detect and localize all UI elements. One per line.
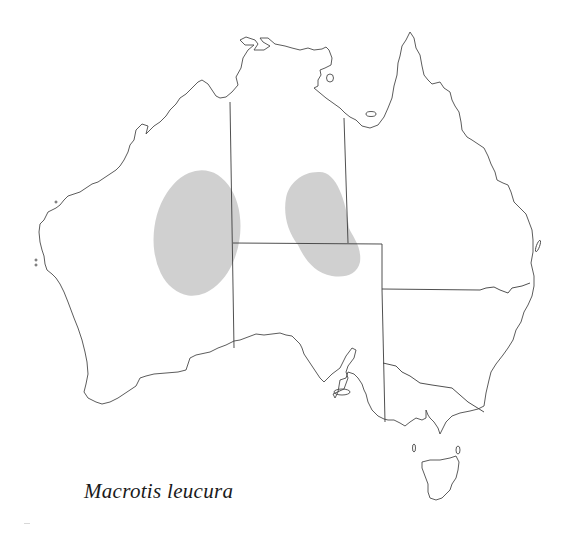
- island-small-nw: [55, 201, 57, 203]
- distribution-map: Macrotis leucura: [0, 0, 570, 534]
- island-groote: [327, 74, 334, 82]
- mainland-coastline: [39, 32, 534, 434]
- australia-map: [0, 0, 570, 534]
- corner-mark: [24, 523, 30, 524]
- island-small-w2: [35, 264, 37, 266]
- tasmania-coastline: [422, 456, 459, 500]
- border-sa-qld-nsw-vic: [382, 244, 385, 422]
- island-fraser: [534, 240, 541, 252]
- species-name-label: Macrotis leucura: [84, 479, 233, 504]
- island-mornington: [366, 112, 376, 117]
- border-nsw-vic: [383, 363, 484, 412]
- island-flinders: [456, 446, 460, 454]
- border-nt-sa: [233, 243, 382, 244]
- island-small-w: [35, 259, 37, 261]
- island-king: [413, 444, 416, 452]
- border-qld-nsw: [382, 283, 530, 293]
- range-area-central: [285, 172, 360, 277]
